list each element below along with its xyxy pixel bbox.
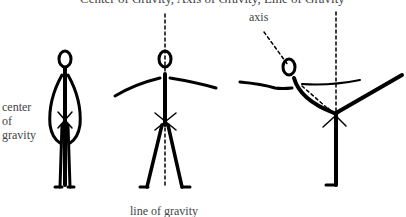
- diagram-canvas: [0, 0, 406, 217]
- standing-figure: [50, 51, 81, 187]
- arms-out-figure: [115, 14, 216, 187]
- arabesque-figure: [240, 12, 402, 185]
